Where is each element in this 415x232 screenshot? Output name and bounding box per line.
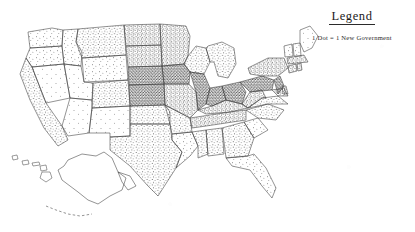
hawaii-maui [40,165,47,171]
state-newmexico [89,106,130,137]
dot-density-map-figure [0,0,415,232]
state-michigan [206,42,236,78]
state-connecticut [288,64,297,73]
state-vermont [284,44,293,57]
state-minnesota [160,24,190,66]
state-kansas [129,84,165,106]
state-maine [300,26,318,52]
state-new-hampshire [293,43,301,56]
state-south-dakota [126,45,162,67]
state-oklahoma [130,105,170,124]
state-new-york [248,58,288,76]
hawaii-big-island [40,172,52,182]
state-florida [226,154,276,198]
region-west [20,25,130,146]
state-colorado [92,80,130,108]
state-rhode-island [297,63,302,71]
hawaii-kauai [12,155,18,160]
state-montana [76,25,126,58]
state-alaska [58,152,126,204]
state-oregon [26,46,64,67]
state-washington [28,28,63,48]
us-map-svg [0,0,415,232]
state-nebraska [128,66,164,85]
state-alabama [206,128,224,156]
inset-hawaii [12,155,52,182]
state-delaware [282,86,288,94]
state-north-dakota [124,24,161,46]
state-pennsylvania [240,76,274,92]
hawaii-oahu [22,160,29,165]
state-iowa [162,64,190,84]
alaska-aleutians [46,206,92,216]
hawaii-molokai [32,162,40,166]
inset-alaska [46,152,136,216]
state-arizona [62,98,92,136]
state-wyoming [82,55,128,82]
region-northeast [240,26,318,96]
